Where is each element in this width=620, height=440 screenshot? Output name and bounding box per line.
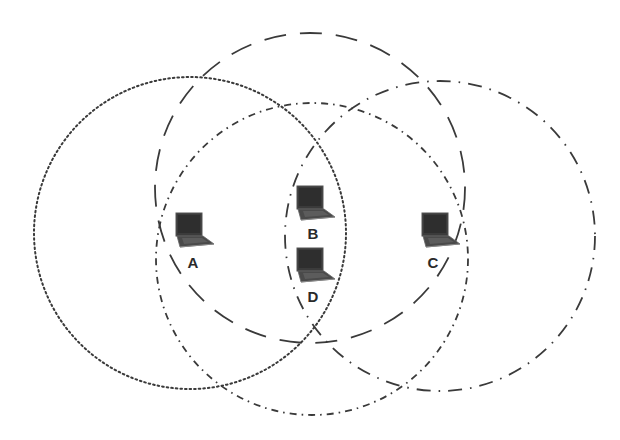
laptop-icon — [176, 213, 214, 247]
node-a — [176, 213, 214, 247]
network-nodes: ABDC — [176, 186, 460, 305]
range-circles — [34, 33, 595, 415]
node-label-a: A — [188, 254, 199, 271]
node-b — [297, 186, 335, 220]
node-label-c: C — [428, 254, 439, 271]
laptop-icon — [422, 213, 460, 247]
node-d — [297, 248, 335, 282]
node-c — [422, 213, 460, 247]
network-range-diagram: ABDC — [0, 0, 620, 440]
node-label-b: B — [308, 225, 319, 242]
node-label-d: D — [308, 288, 319, 305]
laptop-icon — [297, 248, 335, 282]
laptop-icon — [297, 186, 335, 220]
